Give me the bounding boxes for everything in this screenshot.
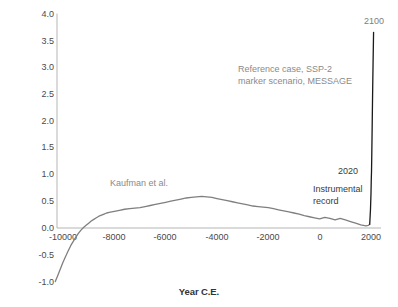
year-2020-annotation: 2020 [338,166,358,178]
series-line-kaufman [55,196,369,281]
kaufman-annotation: Kaufman et al. [110,178,168,190]
year-2100-annotation: 2100 [364,16,384,28]
plot-area [0,0,398,307]
chart-figure: Temp. Anomaly from 1850-1900 Average °C … [0,0,398,307]
instrumental-record-annotation: Instrumental record [313,184,363,207]
series-line-projection [370,32,374,224]
scenario-annotation: Reference case, SSP-2 marker scenario, M… [238,64,352,87]
